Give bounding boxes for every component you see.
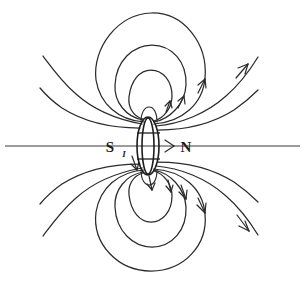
arrowhead-inner-lower xyxy=(166,180,173,192)
north-pole-label: N xyxy=(181,139,192,155)
field-line-middle-loop-upper xyxy=(115,45,186,122)
field-line-inner-loop-upper xyxy=(129,70,172,121)
upper-arrowheads xyxy=(165,64,248,112)
arrowhead-open-right-upper xyxy=(236,64,248,78)
upper-field-lines xyxy=(40,13,258,130)
field-line-inner-loop-lower xyxy=(129,171,172,222)
field-line-open-left-upper-2 xyxy=(40,88,140,128)
field-line-open-right-upper-2 xyxy=(158,90,258,130)
field-line-open-left-lower-2 xyxy=(40,164,140,204)
lower-arrowheads xyxy=(131,156,249,231)
magnetic-field-diagram: S I N xyxy=(0,0,306,283)
field-line-open-left-lower xyxy=(43,168,142,236)
arrowhead-middle-upper xyxy=(178,96,185,108)
arrowhead-open-right-lower xyxy=(237,215,249,231)
field-line-canvas: S I N xyxy=(0,0,306,283)
field-line-open-left-upper xyxy=(43,56,142,124)
south-pole-label: S xyxy=(106,139,114,155)
field-line-open-right-lower-2 xyxy=(158,162,258,202)
current-label: I xyxy=(121,149,126,159)
arrowhead-middle-lower xyxy=(179,185,187,199)
